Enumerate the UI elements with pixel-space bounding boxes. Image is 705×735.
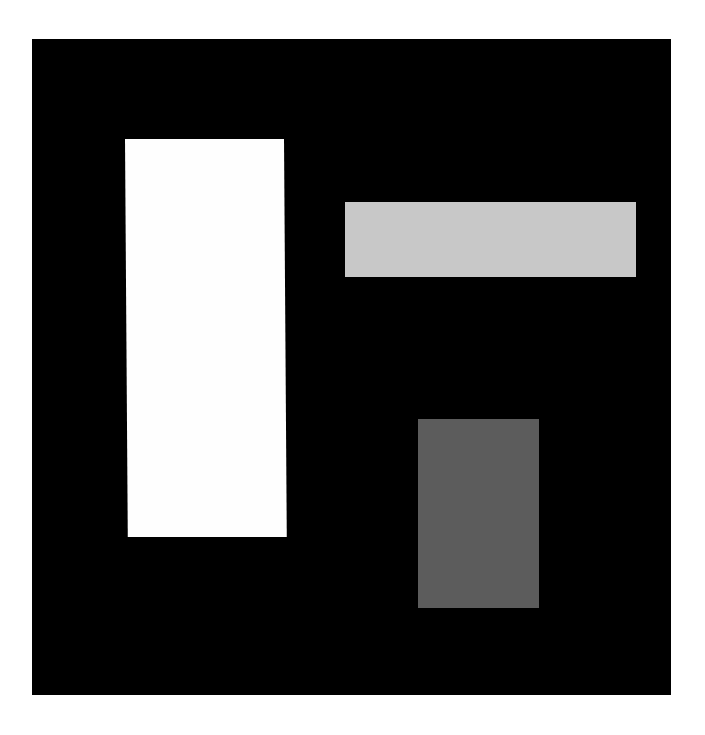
canvas [0, 0, 705, 735]
wide-light-gray-rectangle [345, 202, 636, 277]
tall-white-rectangle [125, 139, 287, 537]
dark-gray-rectangle [418, 419, 539, 608]
